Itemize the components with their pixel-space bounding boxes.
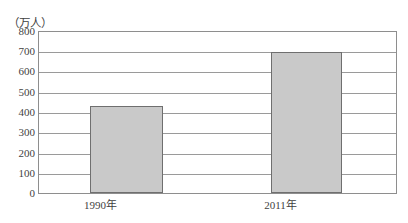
y-tick-label-100: 100 (1, 168, 35, 179)
y-tick-label-800: 800 (1, 26, 35, 37)
y-tick-label-500: 500 (1, 87, 35, 98)
y-tick-label-0: 0 (1, 188, 35, 199)
y-tick-label-400: 400 (1, 107, 35, 118)
plot-area (38, 31, 397, 194)
bar-chart-figure: （万人） 800 700 600 500 400 300 200 100 0 1… (0, 0, 408, 223)
bar-2011 (271, 52, 342, 193)
y-axis-tick-labels: 800 700 600 500 400 300 200 100 0 (0, 31, 35, 194)
gridline-500 (39, 93, 396, 94)
x-tick-label-2011: 2011年 (243, 199, 318, 211)
y-tick-label-300: 300 (1, 127, 35, 138)
y-tick-label-200: 200 (1, 148, 35, 159)
bar-1990 (90, 106, 163, 193)
y-tick-label-700: 700 (1, 46, 35, 57)
gridline-600 (39, 72, 396, 73)
x-tick-label-1990: 1990年 (63, 199, 138, 211)
gridline-700 (39, 52, 396, 53)
y-tick-label-600: 600 (1, 66, 35, 77)
